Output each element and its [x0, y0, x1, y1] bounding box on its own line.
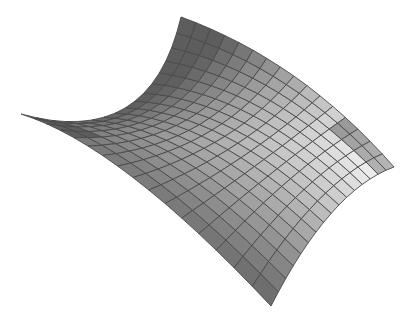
surface-mesh — [21, 17, 394, 306]
saddle-surface-plot — [0, 0, 412, 325]
